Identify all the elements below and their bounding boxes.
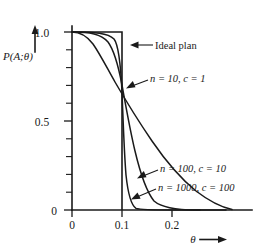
y-axis-label: P(A;θ)	[2, 50, 33, 63]
curve-ideal-plan	[72, 32, 122, 210]
n1000-c100-label: n = 1000, c = 100	[158, 182, 235, 193]
y-ticklabel-3: 0	[51, 205, 57, 217]
x-ticklabel-3: 0.2	[165, 219, 180, 231]
x-axis-label: θ	[190, 233, 196, 245]
annotation-n1000-c100: n = 1000, c = 100	[131, 182, 235, 200]
ideal-plan-arrow-icon	[130, 42, 139, 49]
n100-arrow-icon	[137, 171, 147, 178]
y-axis-major-ticks	[64, 32, 72, 210]
annotation-n10-c1: n = 10, c = 1	[126, 73, 206, 89]
ideal-plan-label: Ideal plan	[155, 40, 197, 51]
x-ticklabel-1: 0	[69, 219, 75, 231]
n1000-leader-line	[137, 189, 156, 197]
n10-c1-label: n = 10, c = 1	[150, 73, 206, 84]
x-ticklabel-2: 0.1	[115, 219, 130, 231]
y-axis-label-group: P(A;θ)	[2, 25, 38, 63]
right-arrow-icon	[218, 236, 227, 243]
n1000-arrow-icon	[131, 193, 141, 200]
annotation-ideal-plan: Ideal plan	[130, 40, 197, 51]
annotation-n100-c10: n = 100, c = 10	[137, 163, 227, 179]
y-ticklabel-1: 1.0	[35, 27, 50, 39]
x-axis-ticks	[72, 210, 172, 217]
y-ticklabel-2: 0.5	[35, 116, 50, 128]
n10-arrow-icon	[126, 81, 136, 88]
chart-canvas: P(A;θ) 1.0 0.5 0	[0, 0, 259, 248]
x-axis-label-group: θ	[190, 233, 227, 245]
oc-curve-figure: P(A;θ) 1.0 0.5 0	[0, 0, 259, 248]
n100-c10-label: n = 100, c = 10	[160, 163, 227, 174]
